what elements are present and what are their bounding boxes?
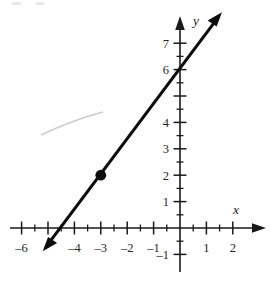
x-tick-label--3: –3 (94, 241, 108, 255)
y-tick-label-7: 7 (163, 37, 169, 51)
y-axis-arrow (175, 16, 185, 30)
x-tick-label--6: –6 (14, 241, 28, 255)
x-tick-label-2: 2 (230, 241, 236, 255)
graph-line-segment (46, 16, 219, 247)
scan-artifact (12, 2, 44, 5)
x-tick-label--4: –4 (67, 241, 81, 255)
pencil-smudge (41, 112, 103, 135)
x-tick-label-1: 1 (203, 241, 209, 255)
graph-line-arrow-up (208, 12, 222, 26)
y-tick-label-6: 6 (163, 63, 169, 77)
coordinate-plane-svg: –6 –4 –3 –2 –1 1 2 7 6 4 3 2 1 –1 x y (0, 0, 271, 286)
y-axis (175, 16, 185, 272)
y-tick-label--1: –1 (156, 248, 170, 262)
y-axis-label: y (191, 13, 199, 28)
x-axis-label: x (232, 202, 239, 217)
plotted-point (95, 170, 106, 181)
y-tick-label-3: 3 (163, 142, 169, 156)
line-graph-figure: –6 –4 –3 –2 –1 1 2 7 6 4 3 2 1 –1 x y (0, 0, 271, 286)
y-tick-label-1: 1 (163, 195, 169, 209)
graph-line-arrow-down (43, 237, 57, 251)
y-tick-label-2: 2 (163, 169, 169, 183)
x-tick-label--2: –2 (120, 241, 134, 255)
x-axis-arrow (252, 223, 266, 233)
graphed-line (43, 12, 222, 251)
y-tick-label-4: 4 (163, 116, 170, 130)
